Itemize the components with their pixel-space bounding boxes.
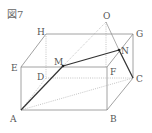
label-d: D: [37, 72, 44, 82]
label-c: C: [136, 74, 143, 84]
line-on: [106, 22, 119, 50]
label-a: A: [9, 114, 17, 124]
segment-mn: [63, 50, 119, 66]
label-f: F: [110, 67, 116, 77]
label-g: G: [136, 29, 143, 39]
prism-diagram: A B C D E F G H O M N: [0, 0, 152, 133]
edge-ad: [21, 78, 46, 110]
point-n-dot: [118, 49, 121, 52]
label-o: O: [103, 11, 110, 21]
diagonal-ac: [21, 78, 133, 110]
label-e: E: [11, 63, 18, 73]
label-h: H: [37, 27, 45, 37]
label-b: B: [110, 114, 117, 124]
edge-he: [21, 34, 46, 67]
label-m: M: [54, 57, 63, 67]
label-n: N: [121, 46, 129, 56]
edge-bc: [107, 78, 133, 110]
